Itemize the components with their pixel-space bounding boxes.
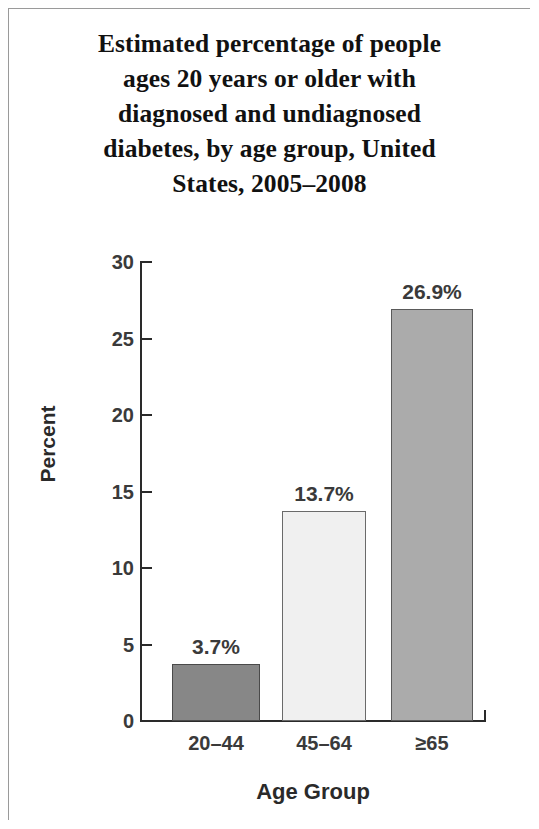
x-axis-title: Age Group — [140, 779, 486, 805]
y-tick-label-30: 30 — [90, 252, 134, 272]
y-tick-label-25: 25 — [90, 329, 134, 349]
bar-45–64[interactable] — [282, 511, 366, 721]
y-tick-label-0: 0 — [90, 711, 134, 731]
x-axis-end-cap — [484, 710, 486, 722]
y-tick-20 — [142, 414, 152, 416]
x-tick-label-20–44: 20–44 — [152, 733, 280, 753]
bar-chart-plot-area: Percent 051015202530 3.7%20–4413.7%45–64… — [0, 0, 539, 829]
y-tick-label-10: 10 — [90, 558, 134, 578]
y-axis-title: Percent — [36, 374, 60, 514]
y-tick-label-20: 20 — [90, 405, 134, 425]
y-tick-10 — [142, 567, 152, 569]
y-tick-0 — [142, 720, 152, 722]
bar-value-label-20–44: 3.7% — [152, 636, 280, 657]
bar-20–44[interactable] — [172, 664, 260, 721]
bar-≥65[interactable] — [391, 309, 473, 721]
y-tick-15 — [142, 491, 152, 493]
bar-value-label-≥65: 26.9% — [371, 281, 493, 302]
x-tick-label-45–64: 45–64 — [262, 733, 386, 753]
bar-value-label-45–64: 13.7% — [262, 483, 386, 504]
y-tick-30 — [142, 261, 152, 263]
y-tick-label-5: 5 — [90, 635, 134, 655]
y-tick-5 — [142, 644, 152, 646]
y-tick-25 — [142, 338, 152, 340]
y-tick-label-15: 15 — [90, 482, 134, 502]
x-tick-label-≥65: ≥65 — [371, 733, 493, 753]
figure-page: Estimated percentage of people ages 20 y… — [0, 0, 539, 829]
